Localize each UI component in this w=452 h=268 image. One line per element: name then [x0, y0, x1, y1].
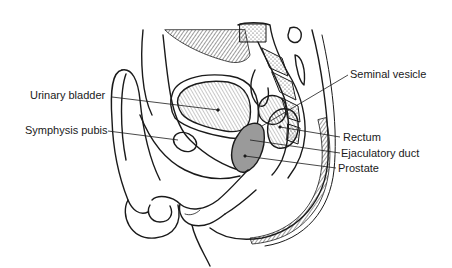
- label-rectum: Rectum: [343, 131, 381, 143]
- abdominal-wall-line: [142, 30, 152, 115]
- label-symphysis-pubis: Symphysis pubis: [25, 124, 108, 136]
- label-seminal-vesicle: Seminal vesicle: [350, 68, 426, 80]
- label-prostate: Prostate: [338, 162, 379, 174]
- symphysis-pubis-shape: [170, 129, 199, 155]
- label-urinary-bladder: Urinary bladder: [30, 89, 105, 101]
- leader-symphysis-pubis: [108, 131, 178, 140]
- label-ejaculatory-duct: Ejaculatory duct: [341, 147, 419, 159]
- anatomy-diagram: Urinary bladder Symphysis pubis Seminal …: [0, 0, 452, 268]
